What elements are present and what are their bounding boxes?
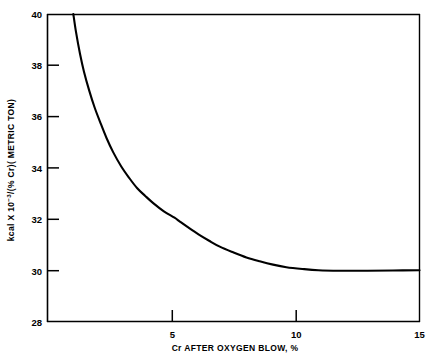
y-tick-label-30: 30 [31, 266, 42, 277]
y-tick-label-38: 38 [31, 60, 42, 71]
y-tick-label-36: 36 [31, 111, 42, 122]
y-tick-label-40: 40 [31, 9, 42, 20]
chart-background [0, 0, 430, 357]
y-tick-label-34: 34 [31, 163, 42, 174]
y-tick-label-28: 28 [31, 317, 42, 328]
y-tick-label-32: 32 [31, 214, 42, 225]
y-axis-title-text: kcal X 10−3/(% Cr)( METRIC TON) [5, 99, 16, 241]
x-axis-title: Cr AFTER OXYGEN BLOW, % [172, 343, 299, 353]
y-axis-title: kcal X 10−3/(% Cr)( METRIC TON) [5, 99, 16, 241]
line-chart: 40 38 36 34 32 30 28 5 10 15 Cr AFTER OX… [0, 0, 430, 357]
y-axis-title-lead: kcal X 10 [6, 202, 16, 242]
x-tick-label-10: 10 [291, 329, 302, 340]
x-tick-label-15: 15 [414, 329, 425, 340]
chart-figure: 40 38 36 34 32 30 28 5 10 15 Cr AFTER OX… [0, 0, 430, 357]
y-axis-title-exponent: −3 [5, 194, 12, 202]
x-tick-label-5: 5 [170, 329, 176, 340]
y-axis-title-trail: /(% Cr)( METRIC TON) [6, 99, 16, 194]
